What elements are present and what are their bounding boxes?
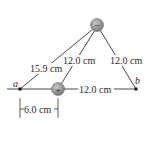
point-b-label: b <box>135 75 140 86</box>
dimension-a-to-positive: 6.0 cm <box>20 98 58 118</box>
point-b: b <box>135 75 141 91</box>
label-a-to-positive: 6.0 cm <box>24 104 51 115</box>
label-a-to-negative: 15.9 cm <box>30 63 62 74</box>
charge-configuration-diagram: 15.9 cm 12.0 cm 12.0 cm 12.0 cm − + a b <box>0 0 149 145</box>
label-negative-to-b: 12.0 cm <box>110 55 142 66</box>
negative-charge: − <box>91 19 104 32</box>
label-positive-to-negative: 12.0 cm <box>63 55 95 66</box>
label-positive-to-b: 12.0 cm <box>79 84 111 95</box>
minus-sign: − <box>94 20 100 31</box>
point-a: a <box>13 78 22 91</box>
positive-charge: + <box>52 83 65 96</box>
plus-sign: + <box>55 85 60 95</box>
point-a-label: a <box>13 78 18 89</box>
